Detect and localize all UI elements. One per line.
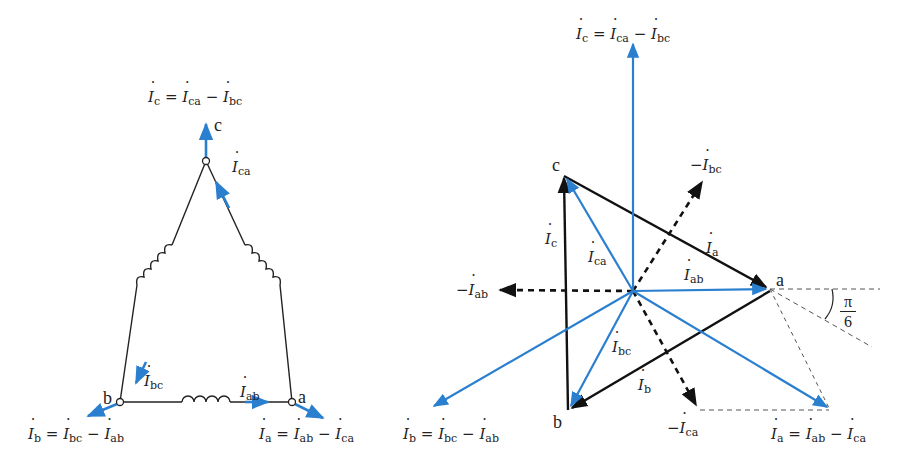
label-Ia-phasor: Ia [706,241,719,258]
label-Ica-phasor: Ica [588,250,607,267]
label-neg-Ibc: −Ibc [690,158,722,175]
node-label-b-phasor: b [553,413,562,431]
phasor-Ic-line [564,178,568,410]
inductor-coil-ca [245,245,280,285]
label-Ic-top-equation: Ic = Ica − Ibc [576,27,670,44]
inductor-coil-ba [182,396,230,402]
label-Iab-phasor: Iab [684,268,704,285]
terminal-c [203,158,210,165]
label-Ic-phasor: Ic [545,232,557,249]
node-label-c-phasor: c [552,156,560,174]
arrow-Ica [216,182,229,208]
label-neg-Ica: −Ica [667,421,698,438]
node-label-a-phasor: a [776,271,784,289]
phasor-diagram [434,44,880,410]
angle-arc [825,289,833,319]
label-Ib-equation: Ib = Ibc − Iab [28,427,124,444]
delta-load-circuit [88,124,323,418]
terminal-b [117,399,124,406]
angle-denominator: 6 [840,314,856,330]
angle-numerator: π [840,294,856,310]
phasor-Ia-total [633,291,827,407]
phasor-neg-Iab [500,290,633,291]
inductor-coil-cb [137,245,172,285]
node-label-b: b [103,389,112,407]
node-label-c: c [214,116,222,134]
label-Ia-total-equation: Ia = Iab − Ica [771,427,866,444]
node-label-a: a [298,388,306,406]
label-Ic-equation: Ic = Ica − Ibc [148,90,242,107]
label-Ib-total-equation: Ib = Ibc − Iab [403,427,499,444]
label-Ica: Ica [232,160,251,177]
label-Iab: Iab [240,385,260,402]
label-Ibc-phasor: Ibc [612,340,631,357]
terminal-a [289,399,296,406]
diagram-canvas [0,0,913,471]
label-Ia-equation: Ia = Iab − Ica [259,427,354,444]
label-Ibc: Ibc [144,374,163,391]
label-neg-Iab: −Iab [456,283,488,300]
label-Ib-phasor: Ib [638,378,651,395]
phasor-Iab [633,289,766,291]
phasor-Ia-line [564,176,766,287]
angle-fraction-bar [840,311,856,312]
